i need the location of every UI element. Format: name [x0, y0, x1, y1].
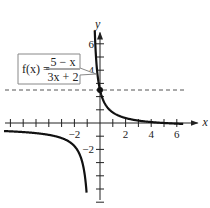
y-tick-label: −2: [82, 143, 94, 155]
curve-right-branch: [95, 31, 183, 124]
y-axis-label: y: [94, 17, 101, 31]
x-tick-label: 2: [123, 128, 129, 140]
callout-lhs: f(x) =: [22, 62, 50, 76]
x-tick-label: −2: [69, 128, 81, 140]
x-axis-label: x: [202, 115, 209, 129]
callout-numerator: 5 − x: [51, 55, 76, 69]
y-tick-label: 6: [89, 38, 95, 50]
function-graph: xy−2246−246f(x) =5 − x3x + 2: [0, 0, 210, 208]
callout-denominator: 3x + 2: [48, 70, 79, 84]
x-tick-label: 6: [174, 128, 180, 140]
x-tick-label: 4: [148, 128, 154, 140]
curve-left-branch: [4, 131, 87, 193]
highlight-point: [97, 87, 103, 93]
